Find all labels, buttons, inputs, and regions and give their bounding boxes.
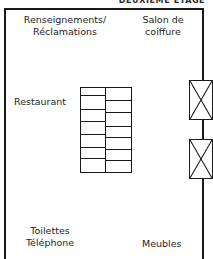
wall-left xyxy=(4,8,6,259)
table-grid-cell xyxy=(81,110,105,122)
room-label-renseignements-reclamations: Renseignements/ Réclamations xyxy=(13,14,117,38)
table-grid-cell xyxy=(106,113,131,126)
x-cross-icon xyxy=(190,81,212,119)
table-grid-cell xyxy=(106,101,131,113)
table-grid-cell xyxy=(106,150,131,161)
table-grid-cell xyxy=(81,88,105,96)
escalator-lower xyxy=(189,139,213,179)
room-label-line: Salon de xyxy=(131,14,195,26)
room-label-line: Meubles xyxy=(142,238,182,250)
room-label-salon-de-coiffure: Salon de coiffure xyxy=(131,14,195,38)
room-label-restaurant: Restaurant xyxy=(14,96,66,108)
room-label-line: Réclamations xyxy=(13,26,117,38)
room-label-line: coiffure xyxy=(131,26,195,38)
table-grid-cell xyxy=(106,127,131,138)
room-label-line: Renseignements/ xyxy=(13,14,117,26)
room-label-line: Toilettes xyxy=(16,225,84,237)
table-grid-cell xyxy=(106,161,131,172)
table-grid-column-left xyxy=(81,88,106,172)
wall-top xyxy=(4,8,204,10)
table-grid-cell xyxy=(81,122,105,135)
table-grid-cell xyxy=(81,159,105,172)
room-label-line: Restaurant xyxy=(14,96,66,108)
table-grid-cell xyxy=(106,138,131,151)
room-label-toilettes-telephone: Toilettes Téléphone xyxy=(16,225,84,249)
table-grid-cell xyxy=(106,88,131,101)
page-title: DEUXIÈME ÉTAGE xyxy=(112,0,212,5)
escalator-upper xyxy=(189,80,213,120)
table-grid-column-right xyxy=(106,88,131,172)
table-grid-cell xyxy=(81,148,105,160)
room-label-meubles: Meubles xyxy=(142,238,182,250)
floor-plan-map: DEUXIÈME ÉTAGE Renseignements/ Réclamati… xyxy=(0,0,213,259)
room-label-line: Téléphone xyxy=(16,237,84,249)
x-cross-icon xyxy=(190,140,212,178)
table-grid-cell xyxy=(81,96,105,109)
restaurant-table-grid xyxy=(80,87,132,173)
table-grid-cell xyxy=(81,135,105,148)
wall-right xyxy=(202,8,204,259)
